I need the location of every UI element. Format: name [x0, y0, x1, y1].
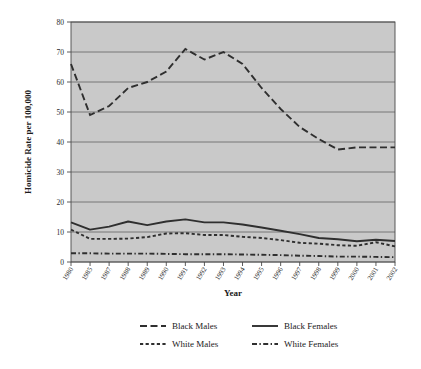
y-tick-label-60: 60 [57, 78, 65, 87]
y-axis-title: Homicide Rate per 100,000 [23, 90, 33, 194]
x-tick-label-1997: 1997 [290, 265, 304, 282]
x-tick-label-1990: 1990 [156, 265, 170, 282]
legend-label-black-females: Black Females [284, 321, 338, 331]
x-tick-marks [71, 262, 395, 266]
x-tick-label-2001: 2001 [366, 265, 380, 282]
x-tick-label-2002: 2002 [385, 265, 399, 282]
x-tick-label-1980: 1980 [61, 265, 75, 282]
y-tick-label-0: 0 [60, 258, 64, 267]
x-tick-label-2000: 2000 [347, 265, 361, 282]
y-tick-labels: 01020304050607080 [57, 18, 65, 267]
x-axis-title: Year [224, 288, 242, 298]
x-tick-label-1994: 1994 [233, 265, 247, 282]
legend-label-white-males: White Males [172, 339, 219, 349]
x-tick-label-1993: 1993 [213, 265, 227, 282]
homicide-rate-line-chart: 01020304050607080 1980198519871988198919… [0, 0, 421, 369]
x-tick-label-1996: 1996 [271, 265, 285, 282]
x-tick-label-1991: 1991 [175, 265, 189, 282]
y-tick-label-20: 20 [57, 198, 65, 207]
y-tick-label-40: 40 [57, 138, 65, 147]
chart-legend: Black MalesBlack FemalesWhite MalesWhite… [140, 321, 339, 349]
x-tick-label-1999: 1999 [328, 265, 342, 282]
x-tick-label-1989: 1989 [137, 265, 151, 282]
legend-label-black-males: Black Males [172, 321, 218, 331]
x-tick-label-1985: 1985 [80, 265, 94, 282]
y-tick-label-30: 30 [57, 168, 65, 177]
x-tick-label-1998: 1998 [309, 265, 323, 282]
y-tick-label-70: 70 [57, 48, 65, 57]
y-tick-marks [67, 22, 71, 262]
x-tick-label-1992: 1992 [194, 265, 208, 282]
y-tick-label-80: 80 [57, 18, 65, 27]
x-tick-label-1988: 1988 [118, 265, 132, 282]
y-tick-label-50: 50 [57, 108, 65, 117]
y-tick-label-10: 10 [57, 228, 65, 237]
legend-label-white-females: White Females [284, 339, 339, 349]
x-tick-label-1995: 1995 [252, 265, 266, 282]
x-tick-label-1987: 1987 [99, 265, 113, 282]
x-tick-labels: 1980198519871988198919901991199219931994… [61, 265, 399, 282]
